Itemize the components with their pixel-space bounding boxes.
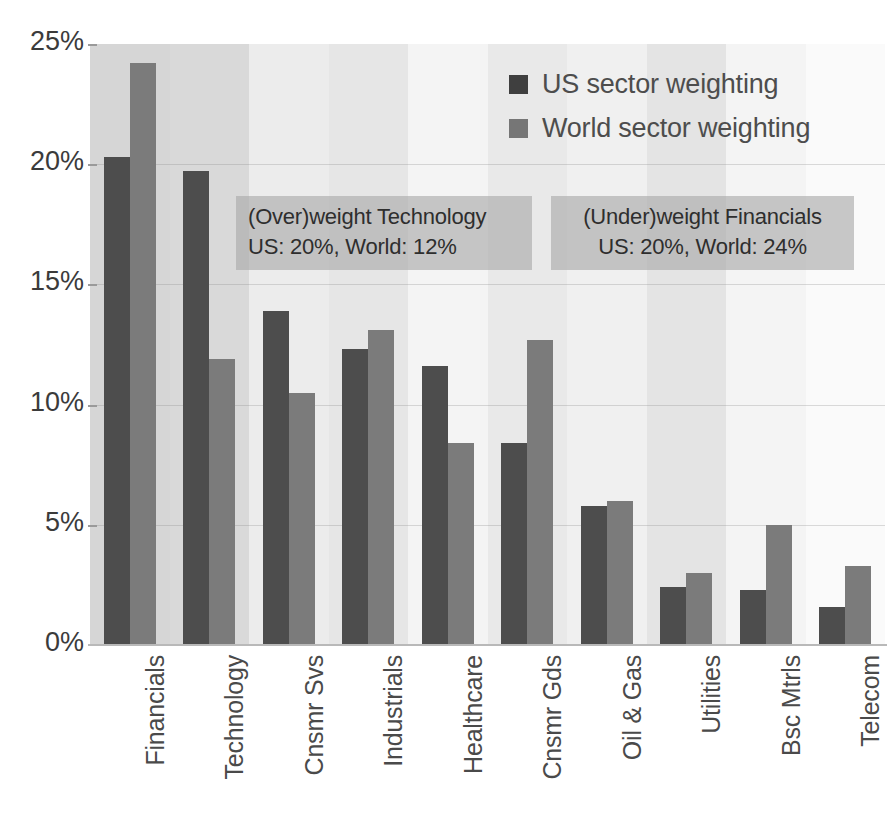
bar-world bbox=[130, 63, 156, 645]
bar-world bbox=[607, 501, 633, 645]
bar-us bbox=[104, 157, 130, 645]
bar-us bbox=[501, 443, 527, 645]
y-axis-tick-mark bbox=[88, 525, 97, 527]
gridline bbox=[90, 164, 885, 165]
x-axis-tick-label: Telecom bbox=[856, 655, 885, 747]
legend-label-us: US sector weighting bbox=[542, 69, 778, 100]
x-axis-tick-label: Cnsmr Gds bbox=[538, 655, 567, 780]
y-axis-tick-label: 5% bbox=[0, 507, 84, 538]
annotation-fin-line-2: US: 20%, World: 24% bbox=[563, 232, 842, 262]
x-axis-tick-label: Financials bbox=[141, 655, 170, 766]
legend-swatch-us-icon bbox=[509, 75, 528, 94]
bar-world bbox=[686, 573, 712, 645]
x-axis-tick-label: Oil & Gas bbox=[618, 655, 647, 760]
x-axis-tick-label: Utilities bbox=[697, 655, 726, 734]
x-axis-baseline bbox=[88, 644, 887, 646]
y-axis-tick-mark bbox=[88, 44, 97, 46]
bar-us bbox=[422, 366, 448, 645]
bar-world bbox=[289, 393, 315, 645]
y-axis-tick-mark bbox=[88, 164, 97, 166]
bar-us bbox=[342, 349, 368, 645]
x-axis-tick-label: Healthcare bbox=[459, 655, 488, 774]
x-axis-tick-label: Technology bbox=[220, 655, 249, 779]
annotation-overweight-technology: (Over)weight Technology US: 20%, World: … bbox=[236, 196, 532, 270]
annotation-fin-line-1: (Under)weight Financials bbox=[563, 202, 842, 232]
gridline bbox=[90, 284, 885, 285]
legend-item-world: World sector weighting bbox=[509, 106, 869, 150]
bar-us bbox=[819, 607, 845, 645]
bar-world bbox=[527, 340, 553, 645]
bar-world bbox=[209, 359, 235, 645]
y-axis-tick-label: 25% bbox=[0, 26, 84, 57]
bar-us bbox=[263, 311, 289, 645]
annotation-tech-line-2: US: 20%, World: 12% bbox=[248, 232, 520, 262]
bar-us bbox=[183, 171, 209, 645]
chart-screenshot: 25%20%15%10%5%0% FinancialsTechnologyCns… bbox=[0, 0, 891, 825]
x-axis-tick-label: Industrials bbox=[379, 655, 408, 767]
legend-item-us: US sector weighting bbox=[509, 62, 869, 106]
bar-world bbox=[766, 525, 792, 645]
bar-us bbox=[740, 590, 766, 645]
x-axis-tick-label: Cnsmr Svs bbox=[300, 655, 329, 775]
bar-world bbox=[368, 330, 394, 645]
legend-swatch-world-icon bbox=[509, 119, 528, 138]
y-axis-tick-mark bbox=[88, 284, 97, 286]
bar-us bbox=[581, 506, 607, 645]
y-axis-tick-label: 0% bbox=[0, 627, 84, 658]
legend-label-world: World sector weighting bbox=[542, 113, 810, 144]
y-axis-tick-label: 20% bbox=[0, 146, 84, 177]
y-axis-tick-label: 15% bbox=[0, 266, 84, 297]
bar-world bbox=[448, 443, 474, 645]
annotation-underweight-financials: (Under)weight Financials US: 20%, World:… bbox=[551, 196, 854, 270]
chart-legend: US sector weighting World sector weighti… bbox=[509, 62, 869, 150]
x-axis-tick-label: Bsc Mtrls bbox=[777, 655, 806, 756]
bar-us bbox=[660, 587, 686, 645]
y-axis-tick-label: 10% bbox=[0, 387, 84, 418]
annotation-tech-line-1: (Over)weight Technology bbox=[248, 202, 520, 232]
bar-world bbox=[845, 566, 871, 645]
y-axis-tick-mark bbox=[88, 405, 97, 407]
